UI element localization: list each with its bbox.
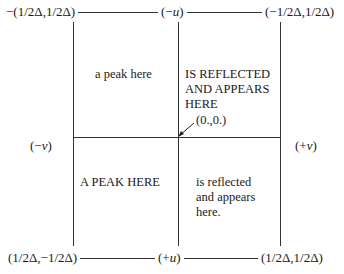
corner-label-bottom-left: (1/2Δ,−1/2Δ) [8,251,80,265]
corner-label-top-left: −(1/2Δ,1/2Δ) [6,5,78,19]
axis-label-top-minus-u: (−u) [158,5,187,19]
axis-label-bottom-plus-u: (+u) [155,251,184,265]
corner-label-bottom-right: (1/2Δ,1/2Δ) [258,251,323,265]
quadrant-lower-left-text: A PEAK HERE [80,175,160,190]
origin-arrow-icon [0,0,344,274]
quadrant-upper-right-text: IS REFLECTED AND APPEARS HERE [185,67,270,112]
quadrant-upper-left-text: a peak here [95,67,152,82]
quadrant-lower-right-text: is reflected and appears here. [196,175,255,220]
axis-label-right-plus-v: (+v) [295,139,317,153]
origin-label: (0.,0.) [196,113,226,128]
corner-label-top-right: (−1/2Δ,1/2Δ) [262,5,334,19]
axis-label-left-minus-v: (−v) [30,139,52,153]
